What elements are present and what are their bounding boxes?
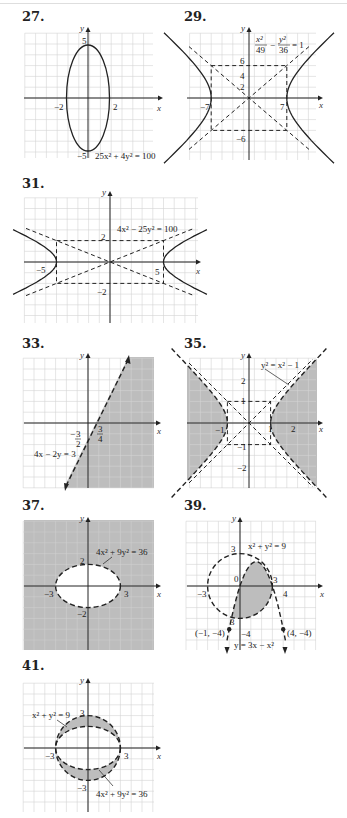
leader-line xyxy=(57,720,67,727)
y-axis-arrow-icon xyxy=(86,678,91,683)
equation-label-ellipse: 4x² + 9y² = 36 xyxy=(96,789,148,799)
tick-label: 3 xyxy=(124,751,129,761)
y-axis-label: y xyxy=(79,675,84,685)
x-axis-arrow-icon xyxy=(156,746,161,751)
equation-label-circle: x² + y² = 9 xyxy=(32,710,71,720)
tick-label: −3 xyxy=(77,783,87,793)
tick-label: −3 xyxy=(45,751,55,761)
tick-label: 3 xyxy=(80,708,85,718)
graph-41: y x x² + y² = 9 4x² + 9y² = 36 3 −3 3 −3 xyxy=(0,0,347,818)
x-axis-label: x xyxy=(156,751,161,761)
